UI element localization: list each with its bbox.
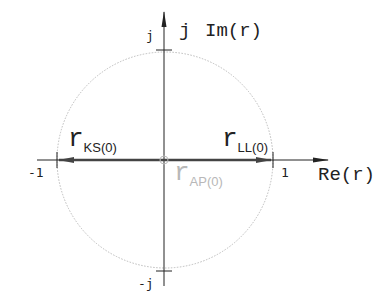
diagram-canvas	[0, 0, 392, 306]
complex-plane-diagram: j Im(r) Re(r) j -j -1 1 rKS(0) rLL(0) rA…	[0, 0, 392, 306]
label-r-ll: rLL(0)	[222, 124, 268, 154]
tick-label-neg-one: -1	[28, 165, 44, 180]
tick-label-pos-one: 1	[281, 165, 289, 180]
tick-label-pos-j: j	[146, 28, 154, 43]
label-r-ap: rAP(0)	[174, 158, 223, 188]
real-axis-label: Re(r)	[318, 164, 375, 186]
label-r-ks: rKS(0)	[68, 124, 117, 154]
tick-label-neg-j: -j	[138, 276, 154, 291]
imag-axis-label: Im(r)	[205, 20, 262, 42]
imag-axis-prefix: j	[179, 20, 190, 42]
